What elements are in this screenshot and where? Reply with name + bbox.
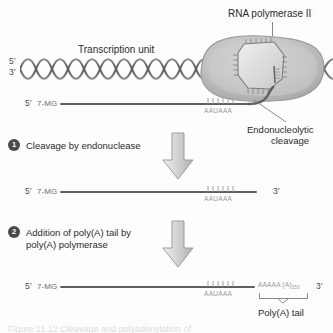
figure-container: RNA polymerase II Transcription unit 5′ …: [0, 0, 333, 333]
transcript-cleaved-signal-ticks: [206, 185, 236, 192]
step-2-text: Addition of poly(A) tail by poly(A) poly…: [26, 227, 131, 250]
step-2-arrow-icon: [161, 220, 195, 268]
step-1-badge: 1: [8, 139, 20, 151]
endonucleolytic-cleavage-label-line2: cleavage: [271, 135, 309, 146]
transcript-cleaved-cap-label: 7-MG: [37, 187, 57, 196]
transcript-polya-sequence: AAAAA (A)250: [258, 281, 300, 288]
step-2-badge: 2: [8, 226, 20, 238]
transcript-nascent-signal-ticks: [206, 97, 236, 104]
transcript-nascent-cap-label: 7-MG: [37, 99, 57, 108]
transcript-polya-cap-label: 7-MG: [37, 282, 57, 291]
transcript-polya-signal-ticks: [206, 280, 236, 287]
transcript-nascent-signal-label: AAUAAA: [204, 107, 232, 114]
endonucleolytic-leader-line: [254, 100, 288, 124]
polya-sequence-text: AAAAA (A): [258, 281, 292, 288]
transcript-polya-five-prime: 5′: [25, 281, 32, 291]
transcript-polya-three-prime: 3′: [316, 281, 323, 291]
dna-five-prime-label: 5′: [9, 56, 16, 66]
dna-three-prime-label: 3′: [9, 67, 16, 77]
transcript-cleaved-signal-label: AAUAAA: [204, 195, 232, 202]
step-1-arrow-icon: [161, 132, 195, 180]
step-1-text: Cleavage by endonuclease: [26, 140, 141, 152]
polya-tail-bracket-tick: [277, 298, 289, 304]
rna-polymerase-label: RNA polymerase II: [228, 8, 311, 20]
transcript-cleaved-three-prime: 3′: [273, 186, 280, 196]
figure-caption-cutoff: Figure 11.12 Cleavage and polyadenylatio…: [8, 324, 191, 333]
transcript-nascent-five-prime: 5′: [25, 98, 32, 108]
polya-tail-label: Poly(A) tail: [258, 307, 304, 318]
endonucleolytic-cleavage-label-line1: Endonucleolytic: [247, 124, 314, 135]
polya-sequence-subscript: 250: [292, 285, 300, 290]
transcript-cleaved-five-prime: 5′: [25, 186, 32, 196]
transcript-polya-signal-label: AAUAAA: [204, 290, 232, 297]
